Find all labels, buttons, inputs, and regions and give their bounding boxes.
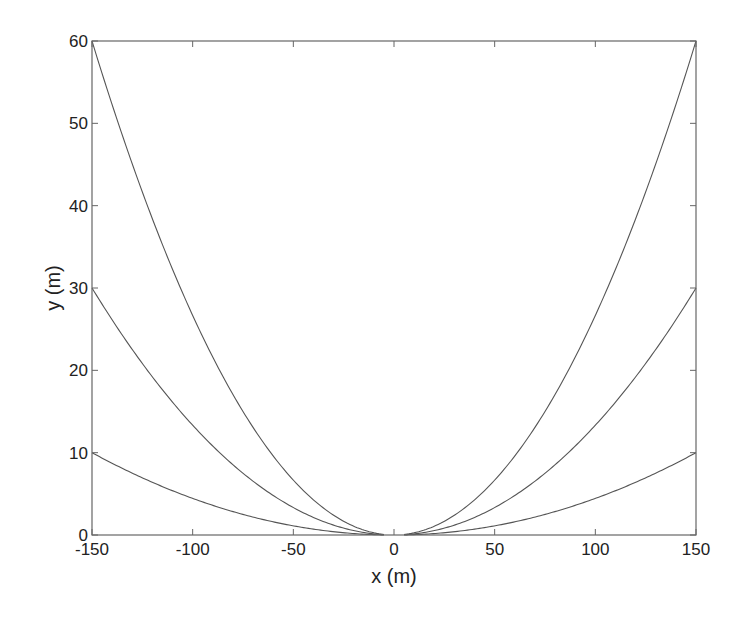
x-axis-ticks: -150-100-50050100150	[75, 41, 710, 559]
plot-frame	[92, 41, 696, 535]
y-tick-label: 10	[69, 444, 88, 463]
x-tick-label: -50	[281, 540, 306, 559]
y-tick-label: 40	[69, 197, 88, 216]
y-axis-label: y (m)	[42, 265, 64, 311]
y-tick-label: 0	[79, 526, 88, 545]
series-line-curve-sag-30	[404, 288, 696, 535]
y-tick-label: 50	[69, 114, 88, 133]
series-line-curve-sag-30	[92, 288, 384, 535]
series-line-curve-sag-10	[404, 453, 696, 535]
y-tick-label: 30	[69, 279, 88, 298]
x-tick-label: -100	[176, 540, 210, 559]
x-axis-label: x (m)	[371, 565, 417, 587]
y-axis-ticks: 0102030405060	[69, 32, 696, 545]
x-tick-label: 100	[581, 540, 609, 559]
series-line-curve-sag-60	[404, 41, 696, 534]
series-line-curve-sag-60	[92, 41, 384, 534]
series-line-curve-sag-10	[92, 453, 384, 535]
x-tick-label: 150	[682, 540, 710, 559]
x-tick-label: 50	[485, 540, 504, 559]
y-tick-label: 20	[69, 361, 88, 380]
y-tick-label: 60	[69, 32, 88, 51]
x-tick-label: 0	[389, 540, 398, 559]
series-layer	[92, 41, 696, 535]
parabola-chart: -150-100-50050100150 0102030405060 x (m)…	[0, 0, 743, 619]
